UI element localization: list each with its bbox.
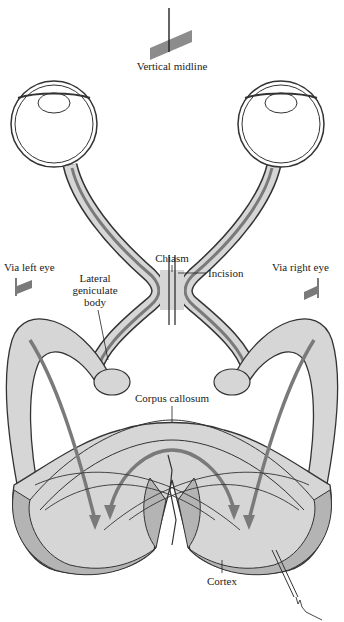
lgb-label-line2: geniculate xyxy=(72,284,117,296)
left-eye-flag xyxy=(16,278,32,296)
chiasm-label: Chiasm xyxy=(155,252,189,264)
via-left-eye-label: Via left eye xyxy=(4,261,55,273)
incision-label: Incision xyxy=(208,267,244,279)
lgb-label-line1: Lateral xyxy=(79,272,110,284)
corpus-callosum-label: Corpus callosum xyxy=(135,392,210,404)
brain-hemispheres xyxy=(7,319,338,575)
via-right-eye-label: Via right eye xyxy=(272,261,329,273)
cortex-label: Cortex xyxy=(207,575,237,587)
lgb-label-line3: body xyxy=(84,296,107,308)
right-eye xyxy=(238,81,324,167)
right-eye-flag xyxy=(304,278,318,300)
left-eye xyxy=(11,81,97,167)
visual-pathway-diagram: Vertical midline Chiasm Incision Via lef… xyxy=(0,0,344,622)
vertical-midline-symbol xyxy=(150,8,192,60)
vertical-midline-label: Vertical midline xyxy=(137,60,208,72)
